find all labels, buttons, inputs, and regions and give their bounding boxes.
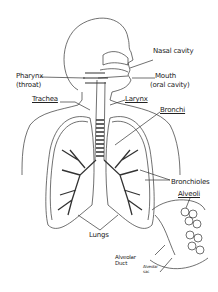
label-alveolar-sac-line2: sac bbox=[143, 269, 158, 274]
label-bronchi: Bronchi bbox=[160, 106, 185, 114]
respiratory-diagram bbox=[0, 0, 218, 292]
label-throat: (throat) bbox=[16, 81, 41, 89]
label-oral-cavity: (oral cavity) bbox=[150, 81, 190, 89]
label-nasal-cavity: Nasal cavity bbox=[153, 47, 193, 55]
label-trachea: Trachea bbox=[32, 95, 58, 103]
label-bronchioles: Bronchioles bbox=[171, 178, 209, 186]
label-alveolar-duct-line2: Duct bbox=[115, 260, 136, 266]
label-lungs: Lungs bbox=[89, 231, 109, 239]
head-outline bbox=[64, 18, 133, 100]
label-alveoli: Alveoli bbox=[178, 190, 200, 198]
label-mouth: Mouth bbox=[155, 72, 176, 80]
label-alveolar-duct: Alveolar Duct bbox=[115, 254, 136, 266]
label-alveolar-sac: Alveolar sac bbox=[143, 264, 158, 274]
label-pharynx: Pharynx bbox=[16, 72, 43, 80]
label-larynx: Larynx bbox=[125, 95, 148, 103]
body-outline bbox=[22, 92, 82, 175]
